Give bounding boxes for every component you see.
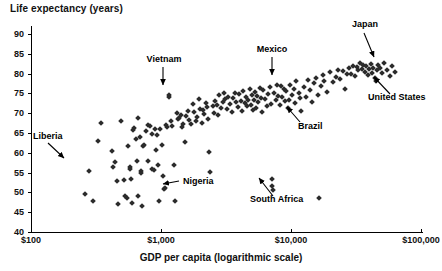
y-tick-mark bbox=[28, 113, 32, 114]
y-tick-mark bbox=[28, 133, 32, 134]
data-point bbox=[171, 163, 177, 169]
data-point bbox=[270, 188, 276, 194]
data-point bbox=[307, 87, 313, 93]
y-tick-label: 75 bbox=[2, 89, 24, 98]
arrow-nigeria bbox=[163, 181, 179, 184]
data-point bbox=[316, 195, 322, 201]
data-point bbox=[169, 123, 175, 129]
y-tick-mark bbox=[28, 173, 32, 174]
data-point bbox=[118, 118, 124, 124]
data-point bbox=[381, 60, 387, 66]
data-point bbox=[384, 67, 390, 73]
data-point bbox=[160, 173, 166, 179]
data-point bbox=[315, 92, 321, 98]
y-tick-label: 85 bbox=[2, 50, 24, 59]
y-tick-mark bbox=[28, 74, 32, 75]
data-point bbox=[134, 158, 140, 164]
data-point bbox=[199, 120, 205, 126]
data-point bbox=[373, 78, 379, 84]
data-point bbox=[239, 108, 245, 114]
y-axis-line bbox=[31, 26, 32, 233]
data-point bbox=[289, 92, 295, 98]
data-point bbox=[301, 84, 307, 90]
data-point bbox=[139, 203, 145, 209]
data-point bbox=[143, 128, 149, 134]
data-point bbox=[387, 73, 393, 79]
x-axis-title: GDP per capita (logarithmic scale) bbox=[0, 252, 442, 263]
annotation-vietnam: Vietnam bbox=[139, 54, 189, 64]
x-tick-label: $10,000 bbox=[251, 236, 331, 245]
data-point bbox=[137, 134, 143, 140]
y-tick-label: 80 bbox=[2, 70, 24, 79]
data-point bbox=[135, 194, 141, 200]
y-tick-label: 65 bbox=[2, 129, 24, 138]
data-point bbox=[153, 147, 159, 153]
data-point bbox=[327, 70, 333, 76]
data-point bbox=[285, 105, 291, 111]
y-tick-mark bbox=[28, 232, 32, 233]
data-point bbox=[129, 200, 135, 206]
data-point bbox=[111, 165, 117, 171]
y-tick-label: 50 bbox=[2, 188, 24, 197]
annotation-nigeria: Nigeria bbox=[183, 176, 214, 186]
x-tick-mark bbox=[421, 229, 422, 233]
data-point bbox=[205, 117, 211, 123]
data-point bbox=[338, 76, 344, 82]
annotation-liberia: Liberia bbox=[33, 131, 63, 141]
x-tick-label: $1,000 bbox=[121, 236, 201, 245]
data-point bbox=[124, 195, 130, 201]
data-point bbox=[136, 115, 142, 121]
data-point bbox=[86, 168, 92, 174]
data-point bbox=[194, 114, 200, 120]
data-point bbox=[154, 132, 160, 138]
data-point bbox=[158, 127, 164, 133]
data-point bbox=[293, 100, 299, 106]
data-point bbox=[121, 177, 127, 183]
data-point bbox=[109, 148, 115, 154]
life-expectancy-scatter-chart: Life expectancy (years) 4045505560657075… bbox=[0, 0, 442, 271]
data-point bbox=[156, 198, 162, 204]
data-point bbox=[201, 111, 207, 117]
data-point bbox=[151, 167, 157, 173]
data-point bbox=[141, 142, 147, 148]
data-point bbox=[389, 63, 395, 69]
y-tick-label: 70 bbox=[2, 109, 24, 118]
data-point bbox=[266, 91, 272, 97]
data-point bbox=[392, 69, 398, 75]
y-tick-mark bbox=[28, 54, 32, 55]
data-point bbox=[190, 102, 196, 108]
data-point bbox=[125, 143, 131, 149]
data-point bbox=[90, 198, 96, 204]
data-point bbox=[262, 96, 268, 102]
y-tick-label: 60 bbox=[2, 149, 24, 158]
x-tick-label: $100,000 bbox=[381, 236, 442, 245]
x-axis-line bbox=[31, 232, 423, 233]
data-point bbox=[342, 86, 348, 92]
annotation-brazil: Brazil bbox=[298, 121, 323, 131]
y-tick-label: 45 bbox=[2, 208, 24, 217]
data-point bbox=[283, 89, 289, 95]
y-tick-mark bbox=[28, 34, 32, 35]
data-point bbox=[159, 142, 165, 148]
data-point bbox=[318, 83, 324, 89]
data-point bbox=[379, 70, 385, 76]
annotation-south-africa: South Africa bbox=[250, 194, 298, 204]
data-point bbox=[321, 78, 327, 84]
data-point bbox=[128, 176, 134, 182]
data-point bbox=[96, 138, 102, 144]
data-point bbox=[188, 121, 194, 127]
y-tick-label: 55 bbox=[2, 169, 24, 178]
data-point bbox=[172, 198, 178, 204]
data-point bbox=[352, 73, 358, 79]
data-point bbox=[253, 105, 259, 111]
data-point bbox=[206, 149, 212, 155]
data-point bbox=[269, 176, 275, 182]
y-tick-mark bbox=[28, 212, 32, 213]
data-point bbox=[116, 201, 122, 207]
y-tick-mark bbox=[28, 153, 32, 154]
data-point bbox=[294, 79, 300, 85]
data-point bbox=[298, 108, 304, 114]
y-tick-mark bbox=[28, 93, 32, 94]
data-point bbox=[127, 167, 133, 173]
annotation-united-states: United States bbox=[368, 92, 416, 102]
